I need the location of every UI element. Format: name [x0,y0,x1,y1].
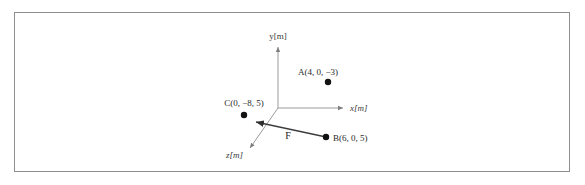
force-vector-f: F [256,122,326,141]
point-b-dot [323,134,329,140]
x-axis-label: x[m] [349,103,368,113]
point-b-label: B(6, 0, 5) [333,133,368,143]
figure-page: y[m] x[m] z[m] F A(4, 0, −3) C(0, −8, 5) [0,0,585,185]
z-axis-line [250,108,278,148]
point-c-dot [241,112,247,118]
point-b: B(6, 0, 5) [323,133,368,143]
point-c-label: C(0, −8, 5) [224,98,264,108]
point-a-dot [325,79,331,85]
y-axis-label: y[m] [269,31,287,41]
y-axis: y[m] [269,31,287,108]
point-a-label: A(4, 0, −3) [298,67,338,77]
coordinate-diagram: y[m] x[m] z[m] F A(4, 0, −3) C(0, −8, 5) [0,0,585,185]
z-axis: z[m] [225,108,278,160]
point-c: C(0, −8, 5) [224,98,264,118]
point-a: A(4, 0, −3) [298,67,338,85]
force-vector-line [256,122,326,137]
x-axis: x[m] [278,103,368,113]
z-axis-label: z[m] [225,150,244,160]
force-vector-label: F [285,130,291,141]
